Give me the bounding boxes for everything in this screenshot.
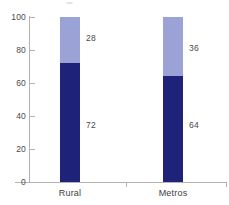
bar-metros-upper-label: 36 <box>189 44 199 53</box>
x-axis-line <box>15 182 227 183</box>
bar-metros-lower-segment[interactable] <box>163 76 183 182</box>
x-tick-mark-middle <box>126 182 127 187</box>
y-tick-label-80: 80 <box>2 46 26 55</box>
bar-metros[interactable]: 64 36 <box>163 17 183 182</box>
category-label-rural: Rural <box>35 189 105 198</box>
bar-rural-upper-label: 28 <box>86 34 96 43</box>
x-tick-mark-right <box>226 182 227 187</box>
bar-rural-lower-label: 72 <box>86 121 96 130</box>
bar-metros-upper-segment[interactable] <box>163 17 183 76</box>
y-tick-label-60: 60 <box>2 79 26 88</box>
plot-area: 72 28 64 36 <box>29 17 225 182</box>
stacked-bar-chart: 100 80 60 40 20 0 72 28 64 3 <box>0 0 229 205</box>
y-tick-mark-0 <box>30 182 35 183</box>
bar-rural-upper-segment[interactable] <box>60 17 80 63</box>
y-tick-label-20: 20 <box>2 145 26 154</box>
bar-rural-lower-segment[interactable] <box>60 63 80 182</box>
bar-metros-lower-label: 64 <box>189 121 199 130</box>
category-label-metros: Metros <box>138 189 208 198</box>
scan-artifact <box>66 2 73 4</box>
y-tick-label-0: 0 <box>2 178 26 187</box>
y-tick-label-40: 40 <box>2 112 26 121</box>
y-tick-label-100: 100 <box>2 13 26 22</box>
bar-rural[interactable]: 72 28 <box>60 17 80 182</box>
